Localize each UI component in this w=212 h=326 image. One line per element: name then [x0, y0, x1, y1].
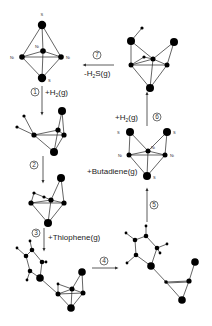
- structure-ring-opening: [125, 225, 199, 304]
- nickel-atom: [61, 132, 66, 137]
- sulfur-atom: [146, 84, 154, 92]
- hydrogen-atom: [29, 240, 32, 243]
- hydrogen-atom: [16, 247, 19, 250]
- hydrogen-atom: [126, 262, 129, 265]
- atom-label: S: [48, 78, 51, 83]
- sulfur-atom: [78, 268, 86, 276]
- hydrogen-atom: [32, 191, 35, 194]
- carbon-atom: [28, 269, 33, 274]
- nickel-atom: [55, 127, 60, 132]
- hydrogen-atom: [42, 195, 45, 198]
- sulfur-atom: [126, 128, 134, 136]
- step-number: 6: [155, 113, 159, 120]
- arrow-head-icon: [41, 112, 44, 116]
- step-number: 2: [32, 161, 36, 168]
- nickel-atom: [165, 63, 170, 68]
- butadiene-release-label: +Butadiene(g): [87, 167, 138, 176]
- structure-ni3s3-h2-adsorbed: [127, 26, 178, 92]
- carbon-atom: [155, 246, 160, 251]
- sulfur-atom: [178, 296, 186, 304]
- nickel-atom: [56, 292, 61, 297]
- arrow-head-icon: [115, 267, 119, 270]
- nickel-atom: [163, 153, 168, 158]
- step-3: 3 +Thiophene(g): [32, 228, 101, 252]
- step-reagent: +H2(g): [115, 113, 138, 123]
- structure-initial-cluster: S Ni Ni Ni S: [10, 12, 70, 83]
- hydrogen-atom: [15, 125, 18, 128]
- sulfur-atom: [44, 219, 52, 227]
- step-5: 5: [146, 188, 159, 223]
- nickel-atom: [31, 132, 36, 137]
- step-6: 6 +H2(g): [115, 92, 161, 127]
- step-reagent: +Thiophene(g): [48, 233, 101, 242]
- arrow-head-icon: [146, 188, 149, 192]
- atom-label: S: [117, 130, 120, 135]
- hydrogen-atom: [45, 261, 48, 264]
- step-4: 4: [92, 257, 119, 270]
- atom-label: S: [153, 175, 156, 180]
- step-number: 5: [152, 201, 156, 208]
- carbon-atom: [144, 234, 149, 239]
- step-number: 7: [95, 51, 99, 58]
- atom-label: Ni: [170, 153, 174, 158]
- arrow-head-icon: [42, 180, 45, 184]
- hydrogen-atom: [140, 26, 143, 29]
- hydrogen-atom: [142, 55, 145, 58]
- atom-label: Ni: [10, 55, 14, 60]
- carbon-atom: [24, 254, 29, 259]
- carbon-atom: [30, 248, 35, 253]
- nickel-atom: [28, 200, 33, 205]
- sulfur-atom: [143, 172, 151, 180]
- sulfur-atom: [127, 37, 135, 45]
- structure-h2-adsorbed: [15, 107, 66, 156]
- step-number: 1: [33, 88, 37, 95]
- nickel-atom: [129, 63, 134, 68]
- atom-label: S: [173, 130, 176, 135]
- step-reagent: +H2(g): [45, 88, 68, 98]
- structure-h-dissociated: [28, 174, 66, 227]
- sulfur-atom: [58, 107, 66, 115]
- arrow-head-icon: [83, 64, 87, 67]
- carbon-atom: [134, 253, 139, 258]
- sulfur-atom: [163, 128, 171, 136]
- carbon-atom: [133, 238, 138, 243]
- hydrogen-atom: [125, 232, 128, 235]
- nickel-atom: [40, 48, 46, 54]
- structure-thiophene-adsorbed: [16, 240, 86, 312]
- sulfur-atom: [50, 148, 58, 156]
- nickel-atom: [127, 153, 132, 158]
- step-reagent: -H2S(g): [84, 69, 111, 79]
- hydrogen-atom: [26, 279, 29, 282]
- atom-label: Ni: [35, 44, 39, 49]
- nickel-atom: [151, 57, 156, 62]
- arrow-head-icon: [43, 248, 46, 252]
- arrow-head-icon: [146, 92, 149, 96]
- atom-label: Ni: [66, 55, 70, 60]
- nickel-atom: [61, 200, 66, 205]
- sulfur-atom: [57, 174, 65, 182]
- nickel-atom: [19, 54, 25, 60]
- sulfur-atom: [38, 74, 46, 82]
- nickel-atom: [58, 54, 64, 60]
- atom-label: S: [41, 12, 44, 17]
- step-7: 7 -H2S(g): [83, 51, 115, 79]
- nickel-atom: [70, 287, 75, 292]
- step-number: 3: [34, 229, 38, 236]
- sulfur-atom: [147, 262, 155, 270]
- atom-label: Ni: [151, 145, 155, 150]
- hydrogen-atom: [57, 283, 60, 286]
- hds-cycle-diagram: S Ni Ni Ni S 1 +H2(g) 2: [0, 0, 212, 326]
- sulfur-atom: [67, 304, 75, 312]
- carbon-atom: [40, 260, 45, 265]
- nickel-atom: [48, 197, 53, 202]
- step-2: 2: [30, 156, 45, 184]
- hydrogen-atom: [159, 252, 162, 255]
- nickel-atom: [146, 149, 151, 154]
- atom-label: Ni: [118, 153, 122, 158]
- nickel-atom: [186, 278, 191, 283]
- sulfur-atom: [191, 258, 199, 266]
- nickel-atom: [164, 280, 168, 284]
- sulfur-atom: [38, 21, 46, 29]
- nickel-atom: [81, 291, 86, 296]
- hydrogen-atom: [145, 225, 148, 228]
